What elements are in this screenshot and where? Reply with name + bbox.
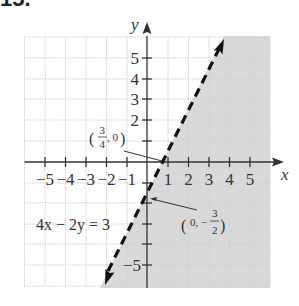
equation-label: 4x − 2y = 3 [36,216,110,234]
svg-text:4: 4 [131,70,140,89]
graph: y x −5 −4 −3 −2 −1 1 2 3 4 5 5 4 3 2 −5 … [0,0,299,306]
svg-text:): ) [220,217,225,235]
svg-text:5: 5 [131,49,140,68]
svg-text:−2: −2 [97,170,115,189]
svg-text:−4: −4 [56,170,75,189]
svg-text:0, −: 0, − [190,216,207,228]
svg-text:4: 4 [100,138,106,150]
svg-text:): ) [120,130,125,148]
svg-text:4: 4 [225,170,234,189]
x-axis-label: x [280,165,289,184]
svg-text:3: 3 [212,207,218,219]
y-axis-arrow-icon [143,22,152,34]
svg-text:2: 2 [184,170,193,189]
svg-text:(: ( [181,217,186,235]
svg-text:2: 2 [212,224,218,236]
svg-text:(: ( [89,130,94,148]
y-axis-label: y [129,15,139,34]
svg-text:5: 5 [246,170,255,189]
svg-text:3: 3 [205,170,214,189]
svg-text:−5: −5 [123,256,141,275]
svg-text:−5: −5 [36,170,54,189]
svg-text:1: 1 [164,170,173,189]
svg-text:, 0: , 0 [107,131,119,143]
x-intercept-annotation: ( 3 4 , 0 ) [89,124,162,161]
svg-text:3: 3 [131,90,140,109]
svg-text:2: 2 [131,111,140,130]
svg-text:3: 3 [100,124,106,136]
svg-text:−1: −1 [118,170,136,189]
svg-text:−3: −3 [77,170,95,189]
